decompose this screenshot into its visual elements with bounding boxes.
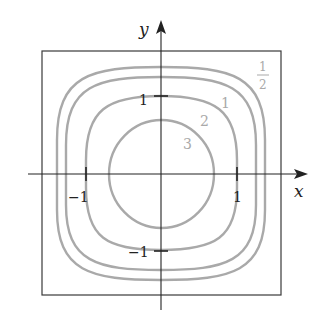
contour-label-1: 1: [221, 95, 230, 111]
contour-label-3: 3: [183, 136, 192, 152]
x-tick-label-1: 1: [233, 189, 242, 205]
y-tick-label-1: 1: [139, 92, 148, 108]
fraction-denominator: 2: [259, 78, 267, 92]
contour-label-2: 2: [200, 113, 209, 129]
fraction-numerator: 1: [259, 60, 267, 74]
contour-label-half: 1 2: [257, 60, 269, 92]
y-tick-label-neg1: −1: [128, 244, 149, 260]
x-tick-label-neg1: −1: [68, 189, 89, 205]
contour-plot: y x −1 1 1 −1 3 2 1 1 2: [0, 0, 320, 320]
y-axis-label: y: [138, 19, 149, 39]
x-axis-label: x: [294, 181, 304, 201]
